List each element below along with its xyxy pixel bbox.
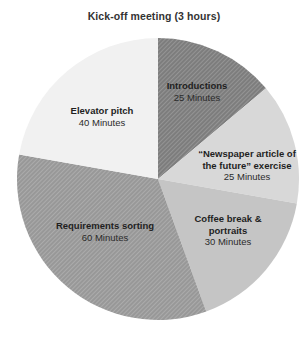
slice-label-requirements-sorting: Requirements sorting 60 Minutes xyxy=(56,220,154,243)
slice-name: Coffee break & xyxy=(194,213,261,225)
slice-minutes: 30 Minutes xyxy=(194,236,261,248)
slice-label-newspaper-exercise: “Newspaper article of the future” exerci… xyxy=(198,148,296,183)
slice-name: Elevator pitch xyxy=(71,105,134,117)
slice-name: “Newspaper article of xyxy=(198,148,296,160)
slice-minutes: 25 Minutes xyxy=(198,171,296,183)
slice-minutes: 40 Minutes xyxy=(71,117,134,129)
slice-label-coffee-break: Coffee break & portraits 30 Minutes xyxy=(194,213,261,248)
slice-label-introductions: Introductions 25 Minutes xyxy=(167,80,228,103)
slice-name: Introductions xyxy=(167,80,228,92)
slice-name: Requirements sorting xyxy=(56,220,154,232)
slice-name: the future” exercise xyxy=(198,160,296,172)
slice-label-elevator-pitch: Elevator pitch 40 Minutes xyxy=(71,105,134,128)
pie-chart: Kick-off meeting (3 hours) Introductions… xyxy=(0,0,308,340)
slice-name: portraits xyxy=(194,225,261,237)
slice-minutes: 25 Minutes xyxy=(167,92,228,104)
slice-minutes: 60 Minutes xyxy=(56,232,154,244)
